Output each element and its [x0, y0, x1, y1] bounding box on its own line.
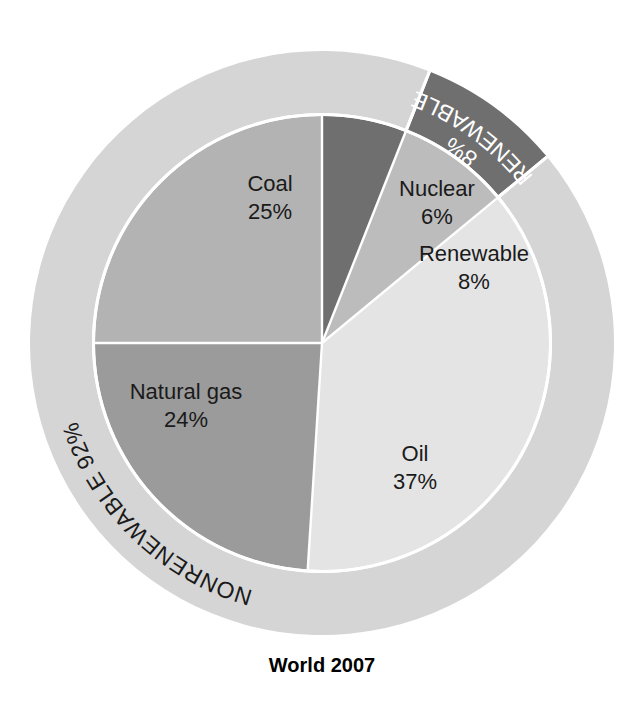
- pie-chart-figure: RENEWABLE8%NONRENEWABLE 92% Coal25%Nucle…: [0, 0, 637, 705]
- slice-label-name: Natural gas: [130, 379, 243, 404]
- slice-label-name: Oil: [402, 441, 429, 466]
- slice-label-percent: 37%: [393, 469, 437, 494]
- slice-label-name: Coal: [247, 171, 292, 196]
- slice-label-percent: 24%: [164, 407, 208, 432]
- chart-title: World 2007: [269, 654, 375, 676]
- slice-label-percent: 8%: [458, 269, 490, 294]
- pie-chart-svg: RENEWABLE8%NONRENEWABLE 92% Coal25%Nucle…: [0, 0, 637, 705]
- slice-label-name: Renewable: [419, 241, 529, 266]
- slice-label-percent: 6%: [421, 204, 453, 229]
- slice-label-name: Nuclear: [399, 176, 475, 201]
- slice-label-percent: 25%: [248, 199, 292, 224]
